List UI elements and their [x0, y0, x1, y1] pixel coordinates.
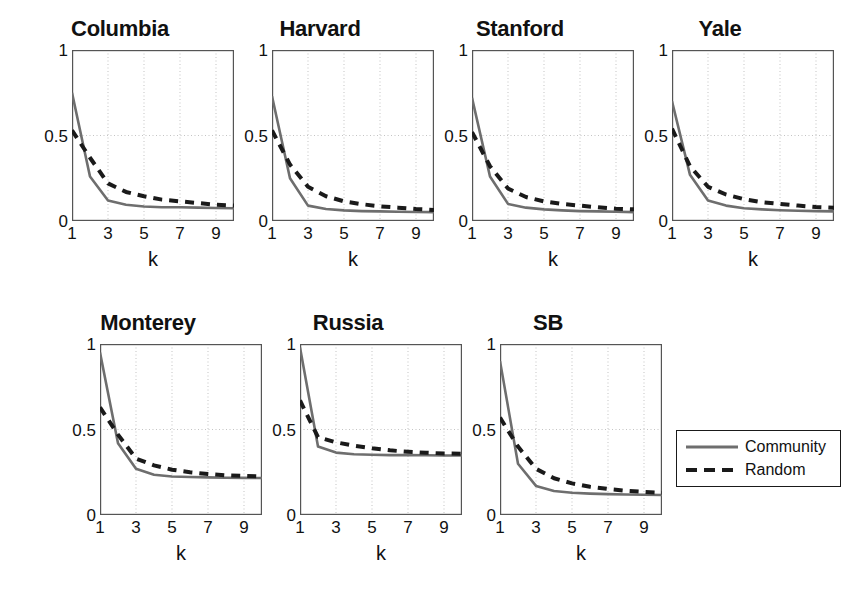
- gridlines: [472, 50, 634, 221]
- x-axis-tick-label: 3: [531, 519, 540, 536]
- x-axis-tick-label: 7: [203, 519, 212, 536]
- y-axis-tick-label: 0.5: [244, 128, 268, 145]
- plot-area: 00.5113579k: [72, 50, 234, 221]
- x-axis-label: k: [376, 543, 386, 563]
- plot-canvas: [300, 344, 462, 515]
- plot-canvas: [272, 50, 434, 221]
- x-axis-tick-label: 3: [703, 225, 712, 242]
- y-axis-tick-label: 0.5: [472, 422, 496, 439]
- series-line-community: [100, 353, 262, 479]
- y-axis-tick-label: 1: [659, 42, 668, 59]
- series-line-community: [300, 347, 462, 455]
- x-axis-tick-label: 7: [775, 225, 784, 242]
- plot-canvas: [72, 50, 234, 221]
- x-axis-tick-label: 3: [303, 225, 312, 242]
- y-axis-tick-label: 1: [459, 42, 468, 59]
- x-axis-tick-label: 9: [811, 225, 820, 242]
- x-axis-tick-label: 3: [331, 519, 340, 536]
- x-axis-tick-label: 1: [495, 519, 504, 536]
- gridlines: [72, 50, 234, 221]
- panel-title: Monterey: [48, 310, 248, 336]
- legend-entry-random: Random: [685, 459, 805, 481]
- legend-label-random: Random: [745, 462, 805, 478]
- y-axis-tick-label: 1: [87, 336, 96, 353]
- x-axis-tick-label: 5: [539, 225, 548, 242]
- x-axis-tick-label: 7: [603, 519, 612, 536]
- x-axis-tick-label: 1: [667, 225, 676, 242]
- series-line-community: [672, 101, 834, 211]
- x-axis-tick-label: 7: [575, 225, 584, 242]
- series-line-community: [500, 361, 662, 495]
- plot-canvas: [100, 344, 262, 515]
- x-axis-label: k: [348, 249, 358, 269]
- y-axis-tick-label: 0.5: [44, 128, 68, 145]
- panel-title: Russia: [248, 310, 448, 336]
- series-line-random: [672, 129, 834, 208]
- panel-title: Yale: [620, 16, 820, 42]
- y-axis-tick-label: 1: [59, 42, 68, 59]
- series-line-random: [300, 400, 462, 453]
- legend-swatch-community-solid-line: [685, 441, 739, 453]
- panel-title: Stanford: [420, 16, 620, 42]
- x-axis-tick-label: 9: [639, 519, 648, 536]
- series-line-community: [272, 96, 434, 212]
- plot-area: 00.5113579k: [672, 50, 834, 221]
- series-line-random: [472, 132, 634, 209]
- series-line-community: [472, 98, 634, 212]
- x-axis-label: k: [576, 543, 586, 563]
- y-axis-tick-label: 1: [259, 42, 268, 59]
- y-axis-tick-label: 0.5: [644, 128, 668, 145]
- chart-panel: Yale00.5113579k: [620, 0, 820, 280]
- plot-area: 00.5113579k: [500, 344, 662, 515]
- x-axis-label: k: [748, 249, 758, 269]
- y-axis-tick-label: 0.5: [272, 422, 296, 439]
- gridlines: [272, 50, 434, 221]
- plot-area: 00.5113579k: [272, 50, 434, 221]
- x-axis-tick-label: 7: [403, 519, 412, 536]
- x-axis-tick-label: 3: [503, 225, 512, 242]
- x-axis-tick-label: 3: [131, 519, 140, 536]
- x-axis-label: k: [548, 249, 558, 269]
- panel-title: Harvard: [220, 16, 420, 42]
- gridlines: [100, 344, 262, 515]
- x-axis-tick-label: 1: [267, 225, 276, 242]
- chart-panel: Columbia00.5113579k: [20, 0, 220, 280]
- x-axis-tick-label: 5: [739, 225, 748, 242]
- plot-canvas: [472, 50, 634, 221]
- x-axis-tick-label: 1: [67, 225, 76, 242]
- plot-canvas: [500, 344, 662, 515]
- x-axis-tick-label: 5: [367, 519, 376, 536]
- x-axis-tick-label: 5: [567, 519, 576, 536]
- y-axis-tick-label: 0.5: [72, 422, 96, 439]
- plot-canvas: [672, 50, 834, 221]
- x-axis-tick-label: 3: [103, 225, 112, 242]
- plot-area: 00.5113579k: [100, 344, 262, 515]
- series-line-random: [272, 130, 434, 210]
- x-axis-label: k: [148, 249, 158, 269]
- chart-panel: Harvard00.5113579k: [220, 0, 420, 280]
- legend-label-community: Community: [745, 439, 826, 455]
- figure-multi-panel-chart: Columbia00.5113579kHarvard00.5113579kSta…: [0, 0, 855, 592]
- gridlines: [672, 50, 834, 221]
- plot-area: 00.5113579k: [472, 50, 634, 221]
- x-axis-tick-label: 5: [339, 225, 348, 242]
- panel-title: Columbia: [20, 16, 220, 42]
- y-axis-tick-label: 1: [287, 336, 296, 353]
- x-axis-tick-label: 5: [167, 519, 176, 536]
- chart-panel: Monterey00.5113579k: [48, 294, 248, 574]
- series-line-random: [500, 418, 662, 493]
- legend-entry-community: Community: [685, 436, 826, 458]
- chart-panel: SB00.5113579k: [448, 294, 648, 574]
- x-axis-tick-label: 7: [375, 225, 384, 242]
- y-axis-tick-label: 1: [487, 336, 496, 353]
- gridlines: [500, 344, 662, 515]
- series-line-random: [72, 130, 234, 205]
- x-axis-tick-label: 5: [139, 225, 148, 242]
- x-axis-tick-label: 7: [175, 225, 184, 242]
- chart-panel: Russia00.5113579k: [248, 294, 448, 574]
- x-axis-label: k: [176, 543, 186, 563]
- x-axis-tick-label: 1: [95, 519, 104, 536]
- x-axis-tick-label: 1: [467, 225, 476, 242]
- gridlines: [300, 344, 462, 515]
- legend-swatch-random-dashed-line: [685, 464, 739, 476]
